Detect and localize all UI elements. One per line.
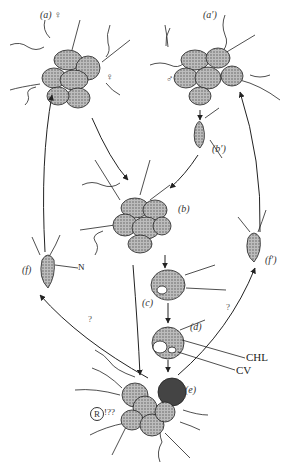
label-stage-f: (f) [22,264,31,275]
label-a-female-symbol: ♀ [106,71,114,82]
label-uncertain-left: ? [88,314,92,324]
label-nucleus: N [78,262,85,272]
label-uncertain-right: ? [226,302,230,312]
label-contractile-vacuole: CV [236,364,251,376]
colony-a-prime-male [150,15,280,105]
cell-f-prime [238,210,266,262]
label-R-suffix: !?? [104,407,115,417]
label-stage-d: (d) [190,321,202,332]
life-cycle-diagram [0,0,291,471]
label-chloroplast: CHL [246,351,268,363]
label-stage-c: (c) [142,297,153,308]
label-stage-e: (e) [185,384,196,395]
cell-f [32,235,78,288]
colony-a-female [10,20,130,108]
label-stage-f-prime: (f′) [265,254,277,265]
colony-b [80,160,171,255]
label-stage-a: (a) ♀ [40,9,62,20]
label-stage-a-prime: (a′) [203,9,217,20]
colony-e [75,350,208,462]
label-a-prime-male-symbol: ♂ [166,73,174,84]
label-stage-b-prime: (b′) [212,143,226,154]
cell-c [151,265,226,300]
label-R-circle: R [90,407,104,421]
label-stage-b: (b) [178,203,190,214]
